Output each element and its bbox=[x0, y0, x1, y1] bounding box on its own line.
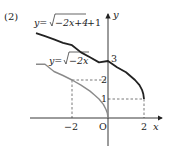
function-graph: (2) y= −2x+4 +1 y= −2x y x O −2 2 1 2 3 bbox=[0, 0, 177, 153]
y-tick-1: 1 bbox=[101, 93, 107, 104]
curve-1-radicand: −2x+4 bbox=[55, 17, 88, 28]
problem-label: (2) bbox=[4, 11, 18, 22]
svg-text:y=: y= bbox=[33, 17, 47, 28]
x-tick-2: 2 bbox=[141, 121, 147, 132]
curve-1-suffix: +1 bbox=[87, 17, 101, 28]
x-axis-label: x bbox=[153, 121, 159, 132]
x-tick-neg2: −2 bbox=[64, 121, 78, 132]
curve-sqrt-neg2x-plus4-plus1 bbox=[36, 33, 144, 99]
origin-label: O bbox=[99, 121, 107, 132]
y-tick-2: 2 bbox=[101, 74, 107, 85]
curve-1-prefix: y= bbox=[33, 17, 47, 28]
y-axis-label: y bbox=[112, 9, 119, 20]
y-tick-3: 3 bbox=[111, 53, 117, 64]
curve-2-prefix: y= bbox=[48, 55, 62, 66]
curve-label-1: y= −2x+4 +1 bbox=[33, 14, 101, 28]
curve-2-radicand: −2x bbox=[69, 55, 89, 66]
curve-label-2: y= −2x bbox=[48, 52, 89, 66]
